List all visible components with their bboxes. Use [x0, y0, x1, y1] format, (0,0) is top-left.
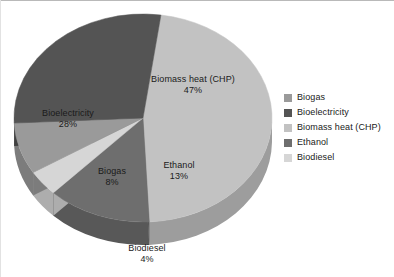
legend-swatch-biomass-heat-chp	[284, 124, 292, 132]
legend-swatch-biodiesel	[284, 154, 292, 162]
pie-chart-figure: Biomass heat (CHP) 47% Bioelectricity 28…	[0, 0, 394, 277]
pie-slice-bioelectricity[interactable]	[14, 14, 161, 123]
chart-legend: Biogas Bioelectricity Biomass heat (CHP)…	[284, 90, 392, 165]
legend-label-ethanol: Ethanol	[297, 137, 328, 148]
legend-swatch-biogas	[284, 94, 292, 102]
legend-item-biodiesel[interactable]: Biodiesel	[284, 150, 392, 165]
legend-label-bioelectricity: Bioelectricity	[297, 107, 349, 118]
legend-label-biomass-heat-chp: Biomass heat (CHP)	[297, 122, 381, 133]
legend-item-ethanol[interactable]: Ethanol	[284, 135, 392, 150]
legend-label-biodiesel: Biodiesel	[297, 152, 334, 163]
legend-item-bioelectricity[interactable]: Bioelectricity	[284, 105, 392, 120]
legend-item-biogas[interactable]: Biogas	[284, 90, 392, 105]
legend-swatch-ethanol	[284, 139, 292, 147]
legend-swatch-bioelectricity	[284, 109, 292, 117]
legend-label-biogas: Biogas	[297, 92, 325, 103]
legend-item-biomass-heat-chp[interactable]: Biomass heat (CHP)	[284, 120, 392, 135]
